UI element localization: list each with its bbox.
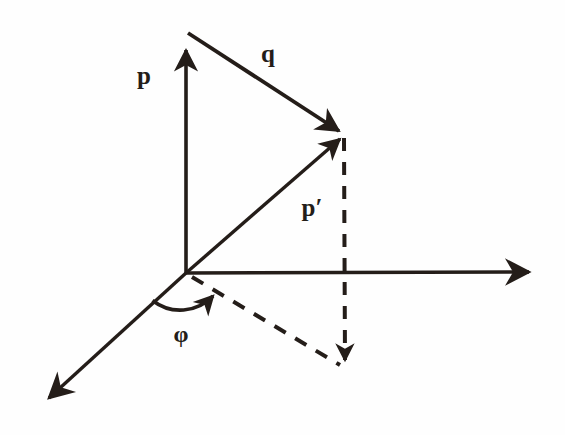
vector-diagram-canvas: p q p′ φ — [0, 0, 565, 435]
label-vector-p-prime: p′ — [302, 194, 323, 221]
label-angle-phi: φ — [174, 321, 189, 347]
axes-group — [49, 272, 529, 398]
label-vector-p: p — [137, 62, 151, 89]
label-vector-q: q — [261, 40, 275, 67]
depth-axis — [49, 273, 186, 398]
horizontal-axis — [186, 272, 529, 273]
vectors-group — [186, 33, 340, 273]
angle-arc-group — [153, 296, 214, 310]
phi-angle-arc — [153, 296, 214, 310]
projection-in-plane-dashed-line — [192, 277, 340, 365]
labels-group: p q p′ φ — [137, 40, 322, 347]
vector-diagram-figure: p q p′ φ — [0, 0, 565, 435]
vertical-drop-dashed-line — [344, 138, 345, 360]
construction-lines-group — [192, 138, 345, 365]
